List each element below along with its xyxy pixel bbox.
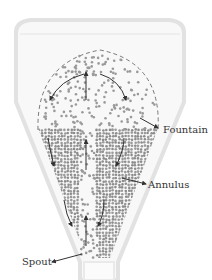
diagram-canvas	[0, 0, 212, 280]
fountain-label: Fountain	[163, 125, 208, 135]
spouted-bed-diagram: Fountain Annulus Spout	[0, 0, 212, 280]
spout-label: Spout	[22, 257, 52, 267]
annulus-label: Annulus	[148, 180, 189, 190]
